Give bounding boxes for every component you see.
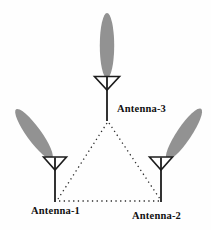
antenna-diagram: Antenna-3 Antenna-1 Antenna-2 (0, 0, 211, 230)
antenna-3-beam-lobe (100, 13, 114, 78)
antenna-1-group (10, 105, 66, 202)
dotted-links (58, 123, 161, 201)
antenna-1-beam-lobe (10, 105, 58, 163)
antenna-1-label: Antenna-1 (31, 205, 80, 216)
antenna-3-label: Antenna-3 (117, 103, 166, 114)
antenna-3-group (95, 13, 120, 121)
link-antenna3-antenna1 (58, 123, 107, 199)
antenna-2-beam-lobe (161, 105, 207, 164)
diagram-canvas (0, 0, 211, 230)
antenna-2-label: Antenna-2 (132, 210, 181, 221)
antenna-2-group (150, 105, 208, 202)
